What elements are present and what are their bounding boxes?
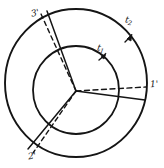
circle-diagram-svg (0, 0, 164, 168)
label-spoke-3-prime: 3' (30, 8, 40, 19)
spoke-1-solid-line (76, 91, 145, 100)
spoke-3-prime-dashed-line (41, 14, 76, 91)
spoke-2-prime-dashed-line (33, 91, 76, 153)
spoke-1-prime-dashed-line (76, 87, 146, 91)
center-point (75, 90, 77, 92)
figure-container: 3' t2 t1 1' 2' (0, 0, 164, 168)
label-spoke-1-prime: 1' (150, 80, 159, 90)
label-spoke-2-prime: 2' (27, 151, 37, 161)
spoke-2-solid-line (28, 91, 76, 149)
spoke-3-solid-line (47, 11, 76, 91)
